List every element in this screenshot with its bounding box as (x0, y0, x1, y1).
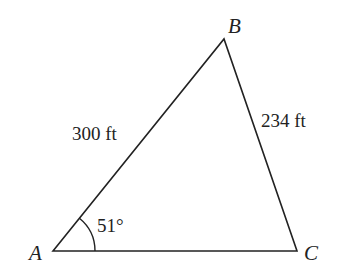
vertex-label-c: C (304, 241, 319, 265)
vertex-label-a: A (27, 241, 42, 265)
side-label-bc: 234 ft (261, 110, 307, 131)
triangle-abc (53, 39, 297, 251)
angle-label-a: 51° (97, 215, 124, 236)
triangle-diagram: A B C 300 ft 234 ft 51° (0, 0, 353, 280)
vertex-label-b: B (228, 14, 241, 38)
angle-arc-a (79, 218, 95, 251)
side-label-ab: 300 ft (72, 123, 118, 144)
